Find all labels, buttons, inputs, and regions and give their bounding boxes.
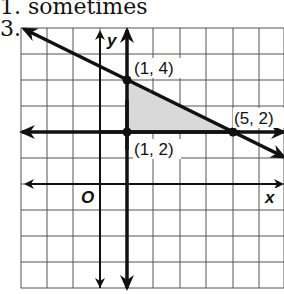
vertex-label-1-4: (1, 4) [134,59,174,78]
vertex-point-1-2 [123,128,132,137]
vertex-label-5-2: (5, 2) [234,109,274,128]
vertex-point-1-4 [123,76,132,85]
vertex-label-1-2: (1, 2) [134,140,174,159]
x-axis-label: x [264,188,276,207]
y-axis-label: y [106,31,118,50]
vertex-point-5-2 [229,128,238,137]
origin-label: O [81,188,94,207]
coordinate-graph: (1, 4) (5, 2) (1, 2) y x O [0,0,284,294]
